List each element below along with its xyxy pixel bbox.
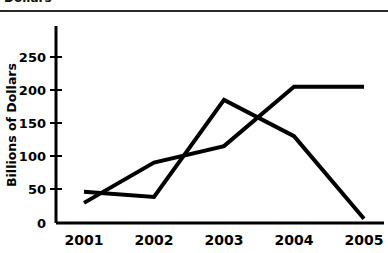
x-tick-labels: 2001 2002 2003 2004 2005 bbox=[65, 232, 384, 248]
data-series-line-1 bbox=[84, 100, 364, 219]
y-tick-label-200: 200 bbox=[19, 83, 46, 98]
x-tick-label-2002: 2002 bbox=[135, 232, 174, 248]
line-chart-plot: 250 200 150 100 50 0 Billions of Dollars… bbox=[0, 0, 388, 253]
y-tick-labels: 250 200 150 100 50 0 bbox=[19, 50, 46, 231]
y-tick-label-250: 250 bbox=[19, 50, 46, 65]
x-tick-label-2005: 2005 bbox=[345, 232, 384, 248]
y-tick-label-100: 100 bbox=[19, 149, 46, 164]
x-tick-label-2004: 2004 bbox=[275, 232, 314, 248]
y-axis-title: Billions of Dollars bbox=[4, 63, 19, 187]
data-series-line-2 bbox=[84, 87, 364, 203]
y-tick-label-0: 0 bbox=[37, 216, 46, 231]
y-tick-label-150: 150 bbox=[19, 116, 46, 131]
chart-figure: Dollars 250 200 150 100 50 0 Billions of… bbox=[0, 0, 388, 253]
x-tick-label-2001: 2001 bbox=[65, 232, 104, 248]
y-tick-label-50: 50 bbox=[28, 182, 46, 197]
x-tick-label-2003: 2003 bbox=[205, 232, 244, 248]
